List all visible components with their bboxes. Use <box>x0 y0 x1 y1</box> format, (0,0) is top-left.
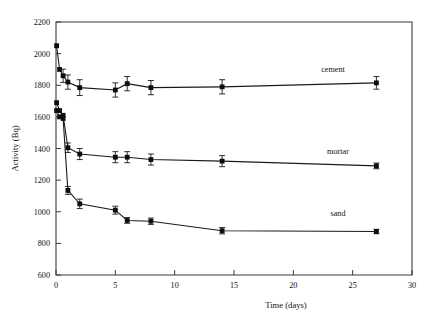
x-axis-tick-label: 20 <box>289 281 297 290</box>
data-point-marker <box>54 100 59 105</box>
data-point-marker <box>149 219 154 224</box>
plot-frame <box>56 22 412 275</box>
y-axis-tick-label: 800 <box>38 239 50 248</box>
data-point-marker <box>61 116 66 121</box>
data-point-marker <box>374 80 379 85</box>
x-axis-tick-label: 0 <box>54 281 58 290</box>
series-mortar <box>54 100 379 168</box>
data-point-marker <box>65 188 70 193</box>
x-axis-tick-label: 5 <box>113 281 117 290</box>
y-axis-tick-label: 1200 <box>34 176 50 185</box>
data-point-marker <box>220 228 225 233</box>
data-point-marker <box>61 73 66 78</box>
y-axis-tick-label: 1400 <box>34 145 50 154</box>
data-point-marker <box>149 157 154 162</box>
x-axis-tick-label: 30 <box>408 281 416 290</box>
data-point-marker <box>113 88 118 93</box>
data-point-marker <box>65 80 70 85</box>
data-point-marker <box>125 155 130 160</box>
data-point-marker <box>54 43 59 48</box>
data-point-marker <box>77 85 82 90</box>
x-axis-title: Time (days) <box>265 300 307 310</box>
data-point-marker <box>220 159 225 164</box>
data-point-marker <box>374 229 379 234</box>
data-point-marker <box>54 108 59 113</box>
y-axis-tick-label: 2200 <box>34 18 50 27</box>
y-axis-tick-label: 1800 <box>34 81 50 90</box>
series-line-sand <box>57 111 377 232</box>
data-point-marker <box>149 85 154 90</box>
data-point-marker <box>125 81 130 86</box>
series-label-cement: cement <box>321 65 345 74</box>
data-point-marker <box>65 145 70 150</box>
data-point-marker <box>77 152 82 157</box>
y-axis-tick-label: 1000 <box>34 208 50 217</box>
chart-canvas: 6008001000120014001600180020002200051015… <box>0 0 440 321</box>
data-point-marker <box>113 208 118 213</box>
series-line-mortar <box>57 103 377 166</box>
data-point-marker <box>125 218 130 223</box>
data-point-marker <box>374 163 379 168</box>
y-axis-title: Activity (Bq) <box>10 125 20 171</box>
series-label-mortar: mortar <box>327 147 349 156</box>
series-label-sand: sand <box>330 209 345 218</box>
y-axis-tick-label: 1600 <box>34 113 50 122</box>
activity-vs-time-chart: 6008001000120014001600180020002200051015… <box>0 0 440 321</box>
y-axis-tick-label: 2000 <box>34 50 50 59</box>
data-point-marker <box>220 84 225 89</box>
data-point-marker <box>77 201 82 206</box>
x-axis-tick-label: 10 <box>171 281 179 290</box>
x-axis-tick-label: 15 <box>230 281 238 290</box>
y-axis-tick-label: 600 <box>38 271 50 280</box>
data-point-marker <box>113 155 118 160</box>
x-axis-tick-label: 25 <box>349 281 357 290</box>
